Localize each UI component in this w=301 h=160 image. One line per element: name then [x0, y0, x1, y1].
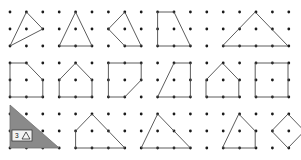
grid-dot — [205, 130, 208, 133]
grid-dot — [91, 62, 94, 65]
grid-dot — [156, 79, 159, 82]
grid-dot — [25, 113, 28, 116]
grid-dot — [91, 130, 94, 133]
grid-dot — [222, 79, 225, 82]
grid-dot — [205, 62, 208, 65]
grid-dot — [205, 147, 208, 150]
grid-dot — [255, 28, 258, 31]
grid-dot — [123, 130, 126, 133]
badge-group: 3 — [12, 130, 32, 141]
grid-dot — [9, 11, 12, 14]
grid-dot — [140, 28, 143, 31]
grid-dot — [140, 96, 143, 99]
grid-dot — [173, 79, 176, 82]
grid-dot — [189, 28, 192, 31]
grid-dot — [156, 130, 159, 133]
grid-dot — [271, 147, 274, 150]
grid-dot — [271, 113, 274, 116]
grid-dot — [205, 28, 208, 31]
grid-dot — [140, 130, 143, 133]
grid-dot — [25, 45, 28, 48]
polygon-diamond-rhombus — [272, 114, 301, 148]
grid-dot — [173, 28, 176, 31]
grid-dot — [238, 11, 241, 14]
geoboard-figure: 3 — [0, 0, 301, 160]
grid-dot — [9, 28, 12, 31]
grid-dot — [91, 28, 94, 31]
grid-dot — [189, 130, 192, 133]
grid-dot — [271, 11, 274, 14]
grid-dot — [74, 113, 77, 116]
grid-dot — [205, 11, 208, 14]
grid-dot — [25, 28, 28, 31]
grid-dot — [123, 113, 126, 116]
grid-dot — [74, 79, 77, 82]
grid-dot — [58, 28, 61, 31]
grid-dot — [238, 62, 241, 65]
grid-dot — [287, 11, 290, 14]
grid-dot — [140, 113, 143, 116]
dot-grid — [9, 11, 291, 150]
badge-number: 3 — [15, 132, 19, 139]
grid-dot — [41, 45, 44, 48]
grid-dot — [58, 11, 61, 14]
grid-dot — [287, 28, 290, 31]
grid-dot — [205, 113, 208, 116]
grid-dot — [74, 28, 77, 31]
grid-dot — [205, 45, 208, 48]
polygon-triangle-filled-right — [10, 105, 59, 148]
grid-dot — [107, 45, 110, 48]
grid-dot — [287, 130, 290, 133]
grid-dot — [123, 28, 126, 31]
grid-dot — [107, 11, 110, 14]
polygon-quadrilateral-trapezoid — [76, 114, 125, 148]
grid-dot — [25, 79, 28, 82]
grid-dot — [271, 79, 274, 82]
grid-dot — [41, 113, 44, 116]
grid-dot — [255, 113, 258, 116]
geoboard-canvas: 3 — [0, 0, 301, 160]
grid-dot — [58, 130, 61, 133]
polygon-triangle-scalene — [141, 114, 190, 148]
grid-dot — [222, 11, 225, 14]
grid-dot — [140, 11, 143, 14]
grid-dot — [41, 62, 44, 65]
grid-dot — [238, 130, 241, 133]
grid-dot — [123, 79, 126, 82]
grid-dot — [173, 113, 176, 116]
grid-dot — [58, 62, 61, 65]
grid-dot — [41, 130, 44, 133]
grid-dot — [156, 62, 159, 65]
grid-dot — [41, 11, 44, 14]
grid-dot — [91, 11, 94, 14]
grid-dot — [189, 113, 192, 116]
grid-dot — [222, 28, 225, 31]
grid-dot — [189, 11, 192, 14]
grid-dot — [58, 113, 61, 116]
grid-dot — [107, 113, 110, 116]
grid-dot — [222, 130, 225, 133]
grid-dot — [222, 113, 225, 116]
